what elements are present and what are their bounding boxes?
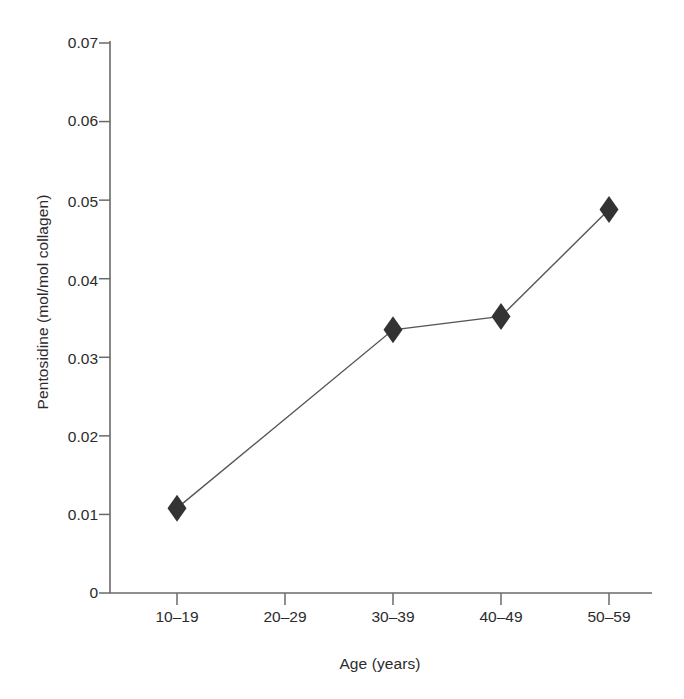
plot-area [0,0,684,699]
data-markers [168,196,619,522]
data-point-marker [600,196,619,223]
data-point-marker [384,316,403,343]
figure-root: Pentosidine (mol/mol collagen) 0.07 0.06… [0,0,684,699]
x-axis-ticks [177,593,609,605]
data-point-marker [168,495,187,522]
y-axis-ticks [99,43,110,593]
data-point-marker [492,303,511,330]
data-line [177,210,609,509]
